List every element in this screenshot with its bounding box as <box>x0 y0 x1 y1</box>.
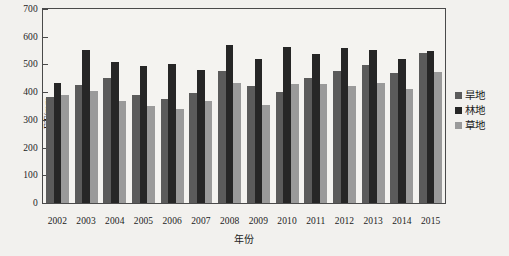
bar <box>82 50 90 203</box>
y-tick-label: 400 <box>23 87 43 97</box>
bar <box>341 48 349 203</box>
bar <box>90 91 98 203</box>
y-tick-label: 300 <box>23 115 43 125</box>
y-tick-mark <box>43 64 48 65</box>
bar <box>398 59 406 203</box>
bar <box>218 71 226 203</box>
x-tick-label: 2010 <box>277 216 296 226</box>
x-tick-label: 2007 <box>191 216 210 226</box>
bar <box>147 106 155 203</box>
y-tick-mark <box>43 37 48 38</box>
bar <box>419 53 427 203</box>
x-tick-label: 2013 <box>364 216 383 226</box>
y-tick-mark <box>43 203 48 204</box>
bar <box>406 89 414 203</box>
bar <box>369 50 377 203</box>
x-tick-label: 2011 <box>306 216 325 226</box>
bar <box>362 65 370 203</box>
x-tick-label: 2006 <box>163 216 182 226</box>
y-tick-label: 200 <box>23 143 43 153</box>
bar <box>233 83 241 203</box>
legend-swatch-icon <box>455 107 462 114</box>
bar <box>427 51 435 203</box>
bar <box>304 78 312 203</box>
legend-item[interactable]: 草地 <box>455 118 509 133</box>
x-tick-label: 2003 <box>76 216 95 226</box>
bar <box>119 101 127 203</box>
x-axis-label: 年份 <box>43 231 445 246</box>
bar <box>434 72 442 203</box>
legend-item-label: 旱地 <box>465 88 486 103</box>
x-tick-label: 2008 <box>220 216 239 226</box>
x-tick-label: 2004 <box>105 216 124 226</box>
bar <box>161 99 169 203</box>
chart-figure: ET/mm 0100200300400500600700 20022003200… <box>0 0 509 256</box>
bar <box>262 105 270 203</box>
bar <box>348 86 356 203</box>
legend-swatch-icon <box>455 122 462 129</box>
bar <box>320 84 328 203</box>
legend-item[interactable]: 林地 <box>455 103 509 118</box>
bar <box>111 62 119 203</box>
bar <box>390 73 398 203</box>
legend-item[interactable]: 旱地 <box>455 88 509 103</box>
y-tick-mark <box>43 92 48 93</box>
bar <box>168 64 176 203</box>
bar <box>61 95 69 203</box>
y-tick-label: 700 <box>23 4 43 14</box>
x-tick-label: 2005 <box>134 216 153 226</box>
bar <box>205 101 213 203</box>
y-tick-label: 500 <box>23 59 43 69</box>
y-tick-mark <box>43 9 48 10</box>
bar <box>132 95 140 203</box>
plot-area: ET/mm 0100200300400500600700 20022003200… <box>43 9 445 203</box>
bar <box>333 71 341 203</box>
bar <box>247 86 255 203</box>
bar <box>377 83 385 203</box>
x-tick-label: 2012 <box>335 216 354 226</box>
y-tick-label: 600 <box>23 32 43 42</box>
bar <box>283 47 291 203</box>
x-tick-label: 2015 <box>421 216 440 226</box>
bar <box>189 93 197 203</box>
bar <box>255 59 263 203</box>
bar <box>140 66 148 203</box>
bar <box>226 45 234 203</box>
bar <box>176 109 184 204</box>
x-tick-label: 2002 <box>48 216 67 226</box>
bar <box>276 92 284 203</box>
bar <box>197 70 205 203</box>
bar <box>103 78 111 203</box>
y-tick-label: 0 <box>33 198 43 208</box>
bar <box>54 83 62 203</box>
bar <box>46 97 54 203</box>
x-tick-label: 2009 <box>249 216 268 226</box>
bar <box>75 85 83 203</box>
chart-legend: 旱地林地草地 <box>455 88 509 133</box>
legend-item-label: 草地 <box>465 118 486 133</box>
legend-swatch-icon <box>455 92 462 99</box>
bar <box>291 84 299 203</box>
bar <box>312 54 320 203</box>
x-tick-label: 2014 <box>392 216 411 226</box>
legend-item-label: 林地 <box>465 103 486 118</box>
y-tick-label: 100 <box>23 170 43 180</box>
